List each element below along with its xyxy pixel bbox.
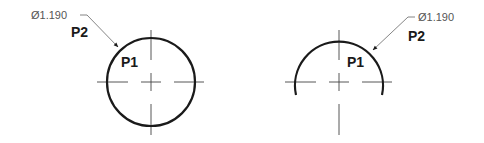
left-dimension-label: Ø1.190: [31, 9, 67, 21]
right-view: Ø1.190 P2 P1: [285, 11, 454, 135]
right-label-p1: P1: [347, 54, 364, 70]
left-label-p2: P2: [71, 24, 88, 40]
left-view: Ø1.190 P2 P1: [31, 9, 204, 135]
left-label-p1: P1: [121, 54, 138, 70]
left-centerlines: [97, 30, 204, 135]
drawing-canvas: Ø1.190 P2 P1 Ø1.190 P2 P1: [0, 0, 484, 143]
right-label-p2: P2: [408, 28, 425, 44]
right-centerlines: [285, 30, 392, 135]
right-dimension-label: Ø1.190: [418, 11, 454, 23]
